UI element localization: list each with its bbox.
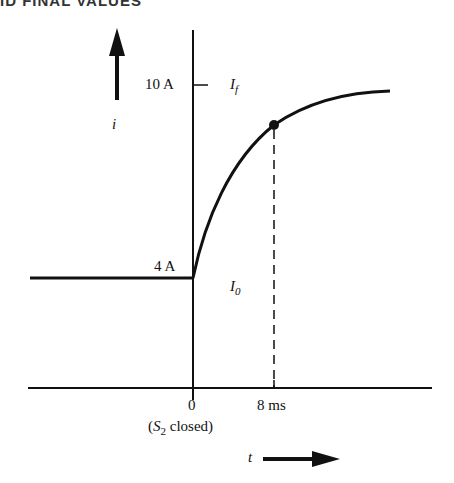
s2-main: S xyxy=(153,418,161,434)
i-arrow-icon xyxy=(109,28,125,56)
s2-closed-text: closed) xyxy=(166,418,213,434)
tick-label-0: 0 xyxy=(188,397,196,414)
i-f-subscript: f xyxy=(235,83,238,95)
tick-label-8ms: 8 ms xyxy=(257,397,286,414)
current-plot xyxy=(0,0,454,483)
x-axis-label: t xyxy=(248,449,252,466)
final-current-label: If xyxy=(230,76,238,95)
tick-label-4a: 4 A xyxy=(154,258,175,275)
tick-label-10a: 10 A xyxy=(145,76,174,93)
t-arrow-icon xyxy=(312,451,340,467)
switch-note: (S2 closed) xyxy=(148,418,213,437)
current-curve xyxy=(193,91,390,278)
i-0-subscript: 0 xyxy=(235,285,241,297)
marked-point xyxy=(269,120,279,130)
initial-current-label: I0 xyxy=(230,278,241,297)
y-axis-label: i xyxy=(112,116,116,133)
